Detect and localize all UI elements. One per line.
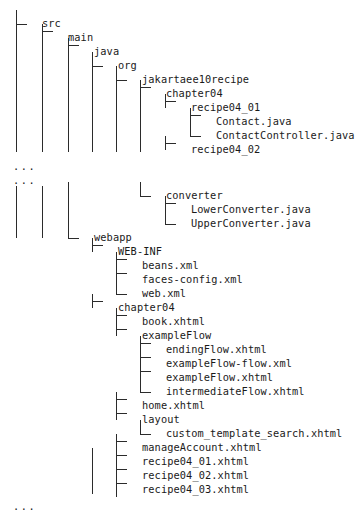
tree-file-label[interactable]: web.xml (142, 286, 186, 300)
tree-file-label[interactable]: book.xhtml (142, 314, 205, 328)
tree-file-label[interactable]: beans.xml (142, 258, 199, 272)
tree-elbow-connector (140, 182, 151, 197)
tree-tee-connector (140, 364, 151, 378)
tree-row: exampleFlow-flow.xml (0, 357, 358, 371)
tree-file-label[interactable]: exampleFlow-flow.xml (166, 356, 292, 370)
tree-elbow-connector (116, 280, 127, 295)
tree-row: java (0, 45, 358, 59)
tree-folder-label[interactable]: recipe04_01 (191, 100, 260, 114)
tree-tee-connector (116, 406, 127, 420)
tree-row: intermediateFlow.xhtml (0, 385, 358, 399)
tree-row: ContactController.java (0, 129, 358, 143)
tree-tee-connector (68, 38, 79, 52)
ellipsis-glyph: ... (13, 499, 36, 513)
tree-file-label[interactable]: ContactController.java (216, 128, 355, 142)
tree-row: recipe04_02 (0, 143, 358, 157)
tree-ellipsis-row: ... (0, 499, 358, 513)
tree-row: endingFlow.xhtml (0, 343, 358, 357)
tree-row: recipe04_01.xhtml (0, 455, 358, 469)
tree-tee-connector (140, 336, 151, 350)
tree-row: main (0, 31, 358, 45)
tree-file-label[interactable]: custom_template_search.xhtml (166, 426, 342, 440)
tree-elbow-connector (190, 122, 201, 137)
tree-tee-connector (116, 448, 127, 462)
tree-row: web.xml (0, 287, 358, 301)
tree-row: recipe04_01 (0, 101, 358, 115)
tree-row: beans.xml (0, 259, 358, 273)
tree-tee-connector (165, 136, 176, 150)
tree-elbow-connector (140, 378, 151, 393)
tree-file-label[interactable]: Contact.java (216, 114, 292, 128)
tree-row: exampleFlow (0, 329, 358, 343)
tree-row: home.xhtml (0, 399, 358, 413)
tree-row: book.xhtml (0, 315, 358, 329)
tree-file-label[interactable]: faces-config.xml (142, 272, 243, 286)
tree-tee-connector (165, 196, 176, 210)
tree-tee-connector (140, 350, 151, 364)
ellipsis-glyph: ... (13, 159, 36, 173)
tree-row: WEB-INF (0, 245, 358, 259)
ellipsis-glyph: ... (13, 173, 36, 187)
tree-elbow-connector (16, 10, 27, 25)
tree-row: manageAccount.xhtml (0, 441, 358, 455)
directory-tree-diagram: srcmainjavaorgjakartaee10recipechapter04… (0, 0, 358, 515)
tree-row: org (0, 59, 358, 73)
tree-file-label[interactable]: UpperConverter.java (191, 216, 311, 230)
tree-elbow-connector (92, 52, 103, 67)
tree-file-label[interactable]: manageAccount.xhtml (142, 440, 262, 454)
tree-row: chapter04 (0, 301, 358, 315)
tree-file-label[interactable]: recipe04_01.xhtml (142, 454, 249, 468)
tree-file-label[interactable]: intermediateFlow.xhtml (166, 384, 305, 398)
tree-elbow-connector (116, 66, 127, 81)
tree-tee-connector (116, 462, 127, 476)
tree-tee-connector (116, 434, 127, 448)
tree-row: chapter04 (0, 87, 358, 101)
tree-tee-connector (116, 322, 127, 336)
tree-elbow-connector (68, 224, 79, 239)
tree-ellipsis-row: ... (0, 173, 358, 187)
tree-row: LowerConverter.java (0, 203, 358, 217)
tree-tee-connector (92, 294, 103, 308)
tree-tee-connector (116, 476, 127, 490)
tree-tee-connector (116, 392, 127, 406)
tree-row: recipe04_02.xhtml (0, 469, 358, 483)
tree-tee-connector (116, 252, 127, 266)
tree-tee-connector (165, 94, 176, 108)
tree-row: exampleFlow.xhtml (0, 371, 358, 385)
tree-tee-connector (140, 80, 151, 94)
tree-file-label[interactable]: LowerConverter.java (191, 202, 311, 216)
tree-tee-connector (92, 238, 103, 252)
tree-row: layout (0, 413, 358, 427)
tree-folder-label[interactable]: recipe04_02 (191, 142, 260, 156)
tree-row: converter (0, 189, 358, 203)
tree-folder-label[interactable]: jakartaee10recipe (142, 72, 249, 86)
tree-row: jakartaee10recipe (0, 73, 358, 87)
tree-file-label[interactable]: exampleFlow.xhtml (166, 370, 273, 384)
tree-row: UpperConverter.java (0, 217, 358, 231)
tree-row: Contact.java (0, 115, 358, 129)
tree-row: recipe04_03.xhtml (0, 483, 358, 497)
tree-tee-connector (116, 266, 127, 280)
tree-file-label[interactable]: recipe04_02.xhtml (142, 468, 249, 482)
tree-row: src (0, 17, 358, 31)
tree-file-label[interactable]: home.xhtml (142, 398, 205, 412)
tree-row: faces-config.xml (0, 273, 358, 287)
tree-folder-label[interactable]: exampleFlow (142, 328, 211, 342)
tree-file-label[interactable]: recipe04_03.xhtml (142, 482, 249, 496)
tree-tee-connector (116, 308, 127, 322)
tree-ellipsis-row: ... (0, 159, 358, 173)
tree-elbow-connector (140, 420, 151, 435)
tree-row: webapp (0, 231, 358, 245)
tree-elbow-connector (165, 210, 176, 225)
tree-tee-connector (42, 24, 53, 38)
tree-tee-connector (190, 108, 201, 122)
tree-file-label[interactable]: endingFlow.xhtml (166, 342, 267, 356)
tree-row: custom_template_search.xhtml (0, 427, 358, 441)
